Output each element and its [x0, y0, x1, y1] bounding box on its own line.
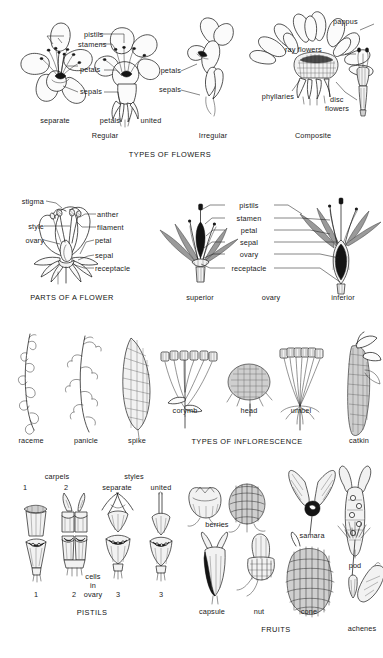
label-ray-flowers: ray flowers	[285, 46, 322, 54]
heading-pistils: PISTILS	[77, 608, 108, 617]
spike-illustration	[123, 338, 150, 438]
label-ovary-stamen: stamen	[237, 215, 262, 223]
pistils-and-fruits-artwork	[0, 460, 383, 658]
label-head: head	[241, 407, 258, 415]
label-pistils: pistils	[84, 31, 103, 39]
nut-illustration	[237, 534, 274, 596]
label-irregular: Irregular	[199, 132, 228, 140]
illustration-plate: pistils stamens petals sepals separate p…	[0, 0, 383, 658]
label-corymb: corymb	[173, 407, 198, 415]
corymb-illustration	[161, 351, 217, 428]
achene-seed-illustration	[358, 563, 383, 602]
label-pistil-num-2: 2	[72, 591, 76, 599]
label-petals: petals	[80, 66, 100, 74]
section-parts-of-a-flower: stigma style ovary anther filament petal…	[0, 170, 383, 320]
label-phyllaries: phyllaries	[262, 93, 294, 101]
label-pistil-num-3: 3	[116, 591, 120, 599]
label-petals-mid: petals	[100, 117, 120, 125]
label-composite: Composite	[295, 132, 331, 140]
heading-parts-of-a-flower: PARTS OF A FLOWER	[30, 293, 114, 302]
types-of-flowers-artwork	[0, 0, 383, 170]
umbel-illustration	[280, 348, 323, 430]
label-carpels: carpels	[45, 473, 70, 481]
label-irregular-petals: petals	[161, 67, 181, 75]
label-nut: nut	[254, 608, 265, 616]
label-achenes: achenes	[348, 625, 377, 633]
label-petal: petal	[95, 237, 112, 245]
label-pappus: pappus	[333, 18, 358, 26]
label-ovary-ovary: ovary	[240, 251, 259, 259]
label-style: style	[28, 223, 44, 231]
label-styles-united: united	[151, 484, 172, 492]
label-regular: Regular	[92, 132, 119, 140]
label-superior: superior	[186, 294, 214, 302]
heading-ovary: ovary	[262, 294, 281, 302]
label-ovary-sepal: sepal	[240, 239, 258, 247]
samara-illustration	[289, 470, 336, 534]
label-pistil-num-3b: 3	[159, 591, 163, 599]
label-styles: styles	[124, 473, 144, 481]
label-carpel-count-1: 1	[23, 484, 27, 492]
label-sepals: sepals	[80, 88, 102, 96]
heading-fruits: FRUITS	[261, 625, 290, 634]
label-irregular-sepals: sepals	[159, 86, 181, 94]
label-umbel: umbel	[291, 407, 312, 415]
label-catkin: catkin	[349, 437, 369, 445]
label-cells: cells	[85, 573, 100, 581]
label-receptacle: receptacle	[95, 265, 130, 273]
label-berries: berries	[205, 521, 228, 529]
label-ovary-petal: petal	[241, 227, 258, 235]
section-types-of-inflorescence: raceme panicle spike corymb head umbel c…	[0, 320, 383, 460]
label-pistil-num-1: 1	[34, 591, 38, 599]
label-ovary-pistils: pistils	[239, 202, 258, 210]
catkin-illustration	[348, 332, 381, 436]
cone-illustration	[286, 532, 334, 617]
label-ovary: ovary	[25, 237, 44, 245]
label-inferior: inferior	[331, 294, 354, 302]
label-pod: pod	[349, 562, 362, 570]
berry-right-illustration	[229, 484, 265, 532]
pistil-styles-united	[150, 492, 172, 581]
pistil-one-carpel	[24, 505, 47, 582]
label-stamens: stamens	[78, 41, 107, 49]
label-capsule: capsule	[199, 608, 225, 616]
label-carpel-count-2: 2	[64, 484, 68, 492]
label-spike: spike	[128, 437, 146, 445]
label-cone: cone	[301, 608, 317, 616]
label-panicle: panicle	[74, 437, 98, 445]
heading-types-of-inflorescence: TYPES OF INFLORESCENCE	[191, 437, 302, 446]
heading-types-of-flowers: TYPES OF FLOWERS	[129, 150, 211, 159]
irregular-flower	[188, 18, 234, 116]
label-separate: separate	[40, 117, 70, 125]
raceme-illustration	[18, 334, 38, 434]
label-ovary-cells: ovary	[84, 591, 103, 599]
capsule-illustration	[201, 532, 227, 604]
pistil-two-carpels	[62, 493, 87, 576]
superior-ovary-flower	[160, 204, 238, 282]
label-styles-separate: separate	[102, 484, 132, 492]
label-anther: anther	[97, 211, 119, 219]
section-types-of-flowers: pistils stamens petals sepals separate p…	[0, 0, 383, 170]
label-stigma: stigma	[22, 198, 44, 206]
callout-leaders-parts	[44, 201, 340, 282]
label-flowers: flowers	[325, 105, 349, 113]
label-united: united	[141, 117, 162, 125]
label-ovary-receptacle: receptacle	[231, 265, 266, 273]
label-raceme: raceme	[18, 437, 43, 445]
pistil-styles-separate	[102, 493, 133, 579]
inferior-ovary-flower	[300, 198, 381, 294]
label-disc: disc	[330, 96, 344, 104]
flower-longitudinal-section	[34, 207, 98, 284]
label-filament: filament	[97, 224, 124, 232]
panicle-illustration	[65, 336, 101, 432]
label-sepal: sepal	[95, 252, 113, 260]
label-in: in	[90, 582, 96, 590]
section-pistils-and-fruits: carpels 1 2 styles separate united cells…	[0, 460, 383, 658]
label-samara: samara	[299, 532, 324, 540]
